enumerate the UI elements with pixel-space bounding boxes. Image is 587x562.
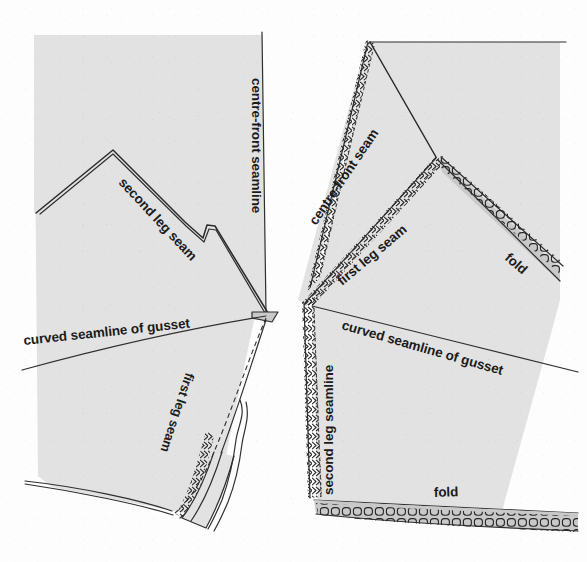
pattern-diagram-figure: centre-front seamline second leg seam cu… [0, 0, 587, 562]
label-centre-front-seamline: centre-front seamline [249, 78, 264, 214]
diagram-page: centre-front seamline second leg seam cu… [0, 0, 587, 562]
label-fold-lower: fold [434, 484, 459, 500]
label-second-leg-seamline: second leg seamline [321, 364, 336, 495]
left-panel-group: centre-front seamline second leg seam cu… [22, 32, 278, 531]
right-panel-group: centre-front seam first leg seam fold se… [298, 40, 578, 532]
